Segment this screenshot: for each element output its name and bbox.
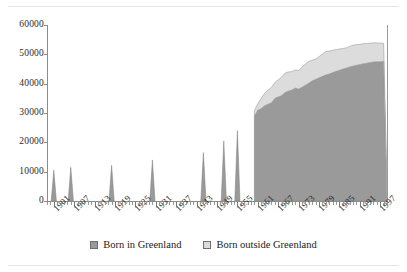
x-axis-tick	[346, 202, 347, 205]
legend-swatch-icon-dark	[90, 241, 98, 249]
x-axis-tick	[152, 202, 153, 205]
x-axis-tick	[356, 202, 357, 205]
x-axis-tick	[339, 202, 340, 207]
x-axis-tick	[220, 202, 221, 205]
y-axis-tick	[44, 25, 48, 26]
x-axis-tick	[210, 202, 211, 205]
x-axis-tick	[193, 202, 194, 205]
x-axis-tick	[387, 202, 388, 205]
x-axis-tick	[299, 202, 300, 207]
x-axis-tick	[180, 202, 181, 205]
x-axis-tick	[326, 202, 327, 205]
x-axis-tick	[61, 202, 62, 205]
legend-label-born-in-greenland: Born in Greenland	[103, 239, 181, 250]
x-axis-tick	[370, 202, 371, 205]
x-axis-tick	[282, 202, 283, 205]
chart-figure: 6000050000400003000020000100000 19011907…	[0, 0, 407, 272]
x-axis-tick	[142, 202, 143, 205]
x-axis-tick	[84, 202, 85, 205]
x-axis-tick	[156, 202, 157, 207]
x-axis-tick	[146, 202, 147, 205]
x-axis-tick	[173, 202, 174, 205]
x-axis-tick	[98, 202, 99, 205]
x-axis-tick	[101, 202, 102, 205]
x-axis-tick	[244, 202, 245, 205]
x-axis-tick	[71, 202, 72, 205]
x-axis-tick	[88, 202, 89, 205]
x-axis-tick	[312, 202, 313, 205]
x-axis-tick	[251, 202, 252, 205]
x-axis-tick	[95, 202, 96, 207]
x-axis-tick	[265, 202, 266, 205]
x-axis-tick	[227, 202, 228, 205]
x-axis-tick	[112, 202, 113, 205]
x-axis-tick	[333, 202, 334, 205]
x-axis-tick	[197, 202, 198, 207]
x-axis-tick	[329, 202, 330, 205]
x-axis-tick	[135, 202, 136, 207]
x-axis-tick	[271, 202, 272, 205]
x-axis-tick	[118, 202, 119, 205]
x-axis-tick	[353, 202, 354, 205]
chart-legend: Born in Greenland Born outside Greenland	[0, 239, 407, 250]
x-axis-tick	[261, 202, 262, 205]
x-axis-tick	[350, 202, 351, 205]
x-axis-tick	[139, 202, 140, 205]
x-axis-tick	[254, 202, 255, 205]
x-axis-tick	[163, 202, 164, 205]
x-axis-tick	[302, 202, 303, 205]
x-axis-tick	[234, 202, 235, 205]
x-axis-tick	[169, 202, 170, 205]
x-axis-tick	[367, 202, 368, 205]
x-axis-tick	[176, 202, 177, 207]
x-axis-tick	[159, 202, 160, 205]
x-axis-tick	[224, 202, 225, 205]
x-axis-tick	[258, 202, 259, 207]
x-axis-tick	[373, 202, 374, 205]
x-axis-tick	[384, 202, 385, 205]
x-axis-tick	[78, 202, 79, 205]
x-axis-tick	[132, 202, 133, 205]
x-axis-tick	[190, 202, 191, 205]
x-axis-tick	[217, 202, 218, 207]
x-axis-tick	[319, 202, 320, 207]
y-axis-tick	[44, 142, 48, 143]
x-axis-tick	[288, 202, 289, 205]
x-axis-tick	[336, 202, 337, 205]
legend-swatch-icon-light	[203, 241, 211, 249]
x-axis-tick	[122, 202, 123, 205]
x-axis-tick	[125, 202, 126, 205]
x-axis-tick	[50, 202, 51, 205]
x-axis-tick	[105, 202, 106, 205]
x-axis-labels: 1901190719131919192519311937194319491955…	[0, 0, 407, 272]
x-axis-tick	[316, 202, 317, 205]
x-axis-tick	[67, 202, 68, 205]
y-axis-tick	[44, 54, 48, 55]
x-axis-tick	[81, 202, 82, 205]
x-axis-tick	[115, 202, 116, 207]
x-axis-tick	[129, 202, 130, 205]
x-axis-tick	[108, 202, 109, 205]
x-axis-tick	[166, 202, 167, 205]
x-axis-tick	[268, 202, 269, 205]
x-axis-tick	[231, 202, 232, 205]
x-axis-tick	[363, 202, 364, 205]
x-axis-tick	[305, 202, 306, 205]
x-axis-tick	[343, 202, 344, 205]
x-axis-tick	[377, 202, 378, 205]
x-axis-tick	[64, 202, 65, 205]
x-axis-tick	[183, 202, 184, 205]
x-axis-tick	[149, 202, 150, 205]
legend-label-born-outside-greenland: Born outside Greenland	[216, 239, 316, 250]
x-axis-tick	[57, 202, 58, 205]
x-axis-tick	[207, 202, 208, 205]
y-axis-tick	[44, 113, 48, 114]
x-axis-tick	[292, 202, 293, 205]
x-axis-tick	[54, 202, 55, 207]
x-axis-tick	[74, 202, 75, 207]
x-axis-tick	[47, 202, 48, 205]
x-axis-tick	[285, 202, 286, 205]
x-axis-tick	[214, 202, 215, 205]
x-axis-tick	[278, 202, 279, 207]
x-axis-tick	[241, 202, 242, 205]
